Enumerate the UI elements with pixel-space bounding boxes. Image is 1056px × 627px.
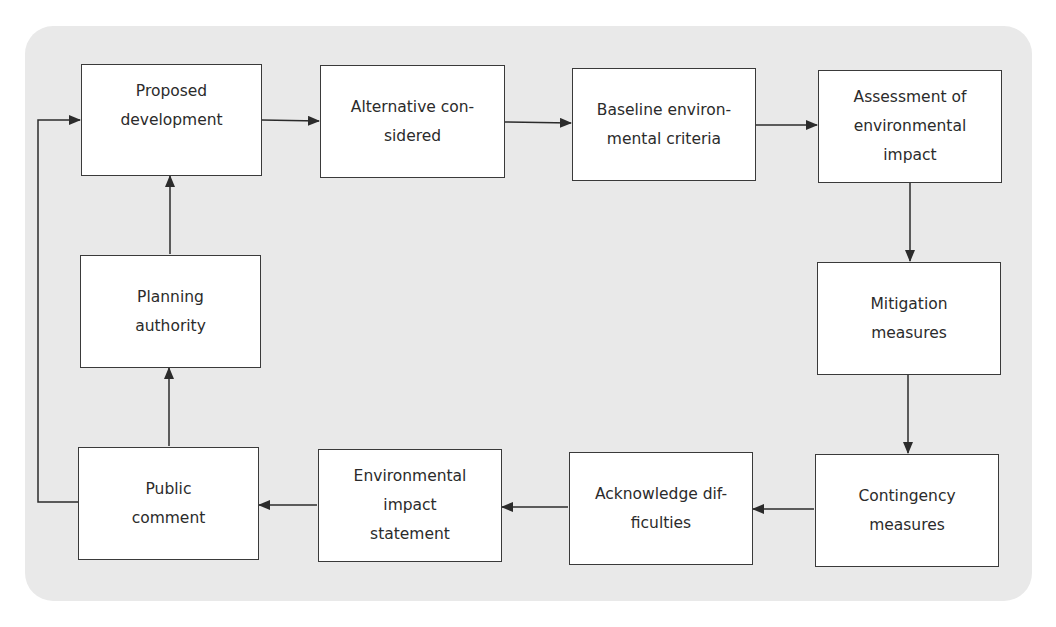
node-public-comment: Public comment bbox=[78, 447, 259, 560]
node-label: Assessment of environmental impact bbox=[854, 83, 967, 170]
arrow-public-to-proposed-loop bbox=[38, 120, 80, 502]
node-assessment-environmental-impact: Assessment of environmental impact bbox=[818, 70, 1002, 183]
node-proposed-development: Proposed development bbox=[81, 64, 262, 176]
arrow-alternative-to-baseline bbox=[505, 122, 571, 123]
node-label: Mitigation measures bbox=[870, 290, 947, 348]
node-label: Contingency measures bbox=[858, 482, 955, 540]
node-baseline-environmental-criteria: Baseline environ- mental criteria bbox=[572, 68, 756, 181]
arrow-proposed-to-alternative bbox=[262, 120, 319, 121]
node-label: Planning authority bbox=[135, 283, 206, 341]
node-label: Environmental impact statement bbox=[354, 462, 467, 549]
node-label: Baseline environ- mental criteria bbox=[597, 96, 731, 154]
node-label: Alternative con- sidered bbox=[351, 93, 474, 151]
node-label: Acknowledge dif- ficulties bbox=[595, 480, 727, 538]
node-alternative-considered: Alternative con- sidered bbox=[320, 65, 505, 178]
node-label: Proposed development bbox=[120, 77, 222, 135]
node-contingency-measures: Contingency measures bbox=[815, 454, 999, 567]
node-environmental-impact-statement: Environmental impact statement bbox=[318, 449, 502, 562]
node-label: Public comment bbox=[132, 475, 206, 533]
node-mitigation-measures: Mitigation measures bbox=[817, 262, 1001, 375]
node-acknowledge-difficulties: Acknowledge dif- ficulties bbox=[569, 452, 753, 565]
node-planning-authority: Planning authority bbox=[80, 255, 261, 368]
